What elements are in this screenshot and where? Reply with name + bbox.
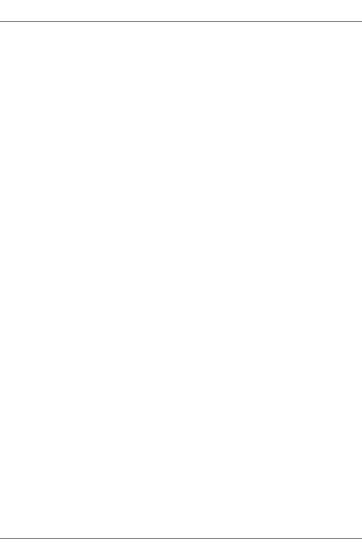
chart-canvas	[0, 0, 362, 544]
